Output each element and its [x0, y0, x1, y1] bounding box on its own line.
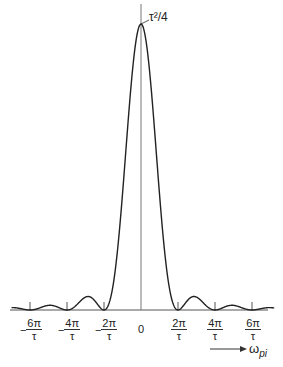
tick-label-zero: 0: [138, 323, 144, 335]
numerator: 6π: [245, 317, 261, 330]
denominator: τ: [101, 330, 117, 342]
omega-subscript: pi: [259, 348, 267, 359]
numerator: 4π: [207, 317, 223, 330]
numerator: 4π: [64, 317, 80, 330]
peak-marker: [141, 20, 149, 24]
denominator: τ: [207, 330, 223, 342]
tick-label-neg-2pi: −2πτ: [91, 317, 121, 342]
sinc-squared-curve: [12, 24, 275, 310]
denominator: τ: [26, 330, 42, 342]
tick-label-neg-6pi: −6πτ: [16, 317, 46, 342]
tick-label-6pi: 6πτ: [238, 317, 268, 342]
denominator: τ: [171, 330, 187, 342]
tick-label-2pi: 2πτ: [164, 317, 194, 342]
tick-label-neg-4pi: −4πτ: [54, 317, 84, 342]
numerator: 2π: [171, 317, 187, 330]
sinc-squared-plot: [0, 0, 283, 367]
denominator: τ: [64, 330, 80, 342]
omega-axis-arrow: [210, 346, 247, 352]
omega-symbol: ω: [249, 341, 259, 356]
omega-axis-label: ωpi: [249, 341, 267, 359]
numerator: 2π: [101, 317, 117, 330]
numerator: 6π: [26, 317, 42, 330]
tick-label-4pi: 4πτ: [200, 317, 230, 342]
peak-value-label: τ²/4: [149, 10, 168, 24]
